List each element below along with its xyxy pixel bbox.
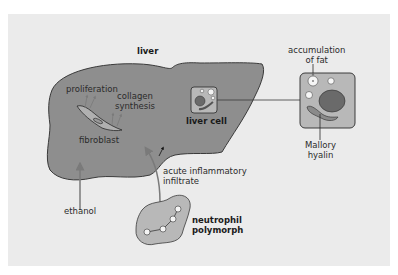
label-ethanol: ethanol bbox=[64, 206, 96, 216]
label-accumulation-of-fat: accumulation of fat bbox=[288, 45, 345, 65]
liver-shape bbox=[47, 63, 263, 180]
label-neutrophil-polymorph: neutrophil polymorph bbox=[192, 215, 243, 235]
liver-cell-enlarged bbox=[300, 64, 355, 140]
label-fibroblast: fibroblast bbox=[79, 135, 119, 145]
label-liver: liver bbox=[137, 46, 158, 56]
label-collagen-synthesis: collagen synthesis bbox=[115, 91, 155, 111]
label-mallory-hyalin: Mallory hyalin bbox=[305, 140, 336, 160]
liver-cell-small bbox=[191, 87, 217, 113]
label-acute-inflammatory-infiltrate: acute inflammatory infiltrate bbox=[163, 166, 247, 186]
neutrophil-cell bbox=[136, 195, 190, 244]
label-liver-cell: liver cell bbox=[186, 116, 227, 126]
label-proliferation: proliferation bbox=[66, 84, 118, 94]
